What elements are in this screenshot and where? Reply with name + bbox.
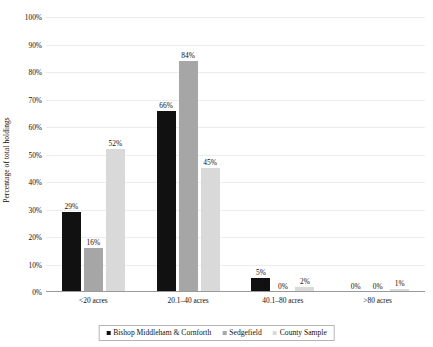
bar-slot: 45%: [201, 17, 220, 292]
bar-slot: 16%: [84, 17, 103, 292]
legend-swatch-icon: [106, 331, 110, 335]
y-axis-tick-label: 0%: [8, 288, 42, 297]
bar-value-label: 5%: [256, 268, 266, 277]
y-axis-tick-label: 60%: [8, 123, 42, 132]
bar: [251, 278, 270, 292]
bar-value-label: 66%: [159, 101, 173, 110]
bar-value-label: 0%: [351, 282, 361, 291]
legend-swatch-icon: [273, 331, 277, 335]
legend-item[interactable]: Sedgefield: [222, 328, 261, 337]
x-axis-tick-label: 40.1–80 acres: [262, 296, 303, 305]
chart-legend: Bishop Middleham & CornforthSedgefieldCo…: [98, 325, 335, 341]
bar-slot: 84%: [179, 17, 198, 292]
y-axis-tick-label: 100%: [8, 13, 42, 22]
bar-slot: 52%: [106, 17, 125, 292]
y-axis-tick-label: 90%: [8, 40, 42, 49]
bar: [62, 212, 81, 292]
bar: [179, 61, 198, 292]
bar-slot: 5%: [251, 17, 270, 292]
bar-value-label: 0%: [373, 282, 383, 291]
x-axis-line: [46, 291, 425, 292]
bar-slot: 29%: [62, 17, 81, 292]
legend-label: Sedgefield: [229, 328, 261, 337]
bar-value-label: 0%: [278, 282, 288, 291]
bar-chart: Percentage of total holdings 0%10%20%30%…: [0, 0, 433, 347]
bar: [106, 149, 125, 292]
legend-item[interactable]: Bishop Middleham & Cornforth: [106, 328, 211, 337]
y-axis-tick-label: 40%: [8, 178, 42, 187]
legend-label: Bishop Middleham & Cornforth: [113, 328, 211, 337]
plot-area: 29%16%52%66%84%45%5%0%2%0%0%1%: [46, 17, 425, 292]
bar-slot: 0%: [273, 17, 292, 292]
bar-value-label: 52%: [109, 139, 123, 148]
bar-slot: 0%: [346, 17, 365, 292]
bar-slot: 2%: [295, 17, 314, 292]
y-axis-tick-label: 80%: [8, 68, 42, 77]
bar-value-label: 2%: [300, 277, 310, 286]
x-axis-tick-label: >80 acres: [363, 296, 392, 305]
bar-slot: 0%: [368, 17, 387, 292]
x-axis-tick-label: <20 acres: [79, 296, 108, 305]
bar-group: 29%16%52%: [46, 17, 141, 292]
legend-swatch-icon: [222, 331, 226, 335]
bar: [84, 248, 103, 292]
bar-value-label: 16%: [87, 238, 101, 247]
y-axis-tick-label: 50%: [8, 150, 42, 159]
x-axis-tick-label: 20.1–40 acres: [168, 296, 209, 305]
bar-value-label: 84%: [181, 51, 195, 60]
bar-slot: 1%: [390, 17, 409, 292]
bar-value-label: 45%: [203, 158, 217, 167]
legend-item[interactable]: County Sample: [273, 328, 327, 337]
legend-label: County Sample: [280, 328, 327, 337]
bar-value-label: 29%: [65, 202, 79, 211]
bar-slot: 66%: [157, 17, 176, 292]
y-axis-tick-label: 30%: [8, 205, 42, 214]
bar-value-label: 1%: [395, 279, 405, 288]
bar: [157, 111, 176, 293]
bar-group: 5%0%2%: [236, 17, 331, 292]
y-axis-tick-label: 70%: [8, 95, 42, 104]
bar-group: 0%0%1%: [330, 17, 425, 292]
bar-group: 66%84%45%: [141, 17, 236, 292]
y-axis-tick-label: 20%: [8, 233, 42, 242]
bar: [201, 168, 220, 292]
y-axis-tick-label: 10%: [8, 260, 42, 269]
